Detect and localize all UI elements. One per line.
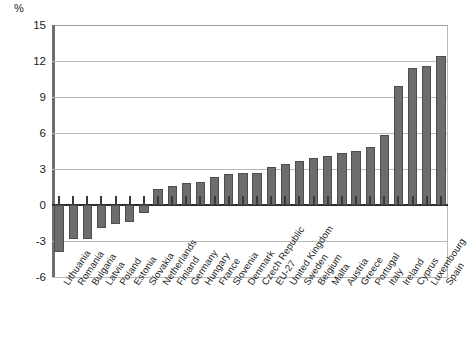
bar-slot bbox=[377, 25, 391, 277]
bar-slot bbox=[250, 25, 264, 277]
x-axis-tick-mark bbox=[412, 196, 414, 205]
x-axis-tick-mark bbox=[256, 196, 258, 205]
x-axis-tick-mark bbox=[214, 196, 216, 205]
bar[interactable] bbox=[380, 135, 389, 205]
x-axis-tick-mark bbox=[129, 196, 131, 205]
x-axis-tick-mark bbox=[115, 196, 117, 205]
x-axis-tick-mark bbox=[284, 196, 286, 205]
bar-slot bbox=[222, 25, 236, 277]
bar[interactable] bbox=[436, 56, 445, 205]
x-axis-tick-mark bbox=[355, 196, 357, 205]
y-tick-label--6: -6 bbox=[0, 272, 46, 282]
bar[interactable] bbox=[54, 205, 63, 252]
x-axis-tick-mark bbox=[313, 196, 315, 205]
bar-slot bbox=[406, 25, 420, 277]
x-axis-tick-mark bbox=[100, 196, 102, 205]
bar-slot bbox=[179, 25, 193, 277]
x-axis-tick-mark bbox=[143, 196, 145, 205]
bar-slot bbox=[307, 25, 321, 277]
bar-slot bbox=[391, 25, 405, 277]
bar[interactable] bbox=[97, 205, 106, 228]
bar-slot bbox=[363, 25, 377, 277]
x-axis-tick-mark bbox=[242, 196, 244, 205]
bar-slot bbox=[278, 25, 292, 277]
x-axis-tick-mark bbox=[397, 196, 399, 205]
x-axis-tick-mark bbox=[369, 196, 371, 205]
bar-slot bbox=[165, 25, 179, 277]
bar[interactable] bbox=[408, 68, 417, 205]
bar-slot bbox=[137, 25, 151, 277]
bar[interactable] bbox=[139, 205, 148, 213]
bar[interactable] bbox=[111, 205, 120, 224]
x-axis-tick-mark bbox=[383, 196, 385, 205]
x-axis-tick-mark bbox=[440, 196, 442, 205]
bar-slot bbox=[151, 25, 165, 277]
bar-slot bbox=[193, 25, 207, 277]
bar[interactable] bbox=[125, 205, 134, 222]
x-axis-tick-mark bbox=[199, 196, 201, 205]
y-axis-unit-label: % bbox=[14, 2, 24, 14]
x-axis-tick-mark bbox=[426, 196, 428, 205]
bar[interactable] bbox=[83, 205, 92, 239]
x-axis-tick-mark bbox=[86, 196, 88, 205]
bar-slot bbox=[208, 25, 222, 277]
bar-slot bbox=[335, 25, 349, 277]
bar-slot bbox=[123, 25, 137, 277]
bar-slot bbox=[321, 25, 335, 277]
x-axis-tick-mark bbox=[270, 196, 272, 205]
gridline--6 bbox=[52, 277, 448, 278]
bar-slot bbox=[292, 25, 306, 277]
x-axis-tick-mark bbox=[171, 196, 173, 205]
bar-slot bbox=[94, 25, 108, 277]
bar-slot bbox=[434, 25, 448, 277]
bar[interactable] bbox=[69, 205, 78, 239]
x-axis-tick-mark bbox=[72, 196, 74, 205]
x-axis-tick-mark bbox=[341, 196, 343, 205]
y-tick-label-0: 0 bbox=[0, 200, 46, 210]
x-axis-tick-mark bbox=[157, 196, 159, 205]
y-tick-label-15: 15 bbox=[0, 20, 46, 30]
bar-slot bbox=[80, 25, 94, 277]
bar-slot bbox=[52, 25, 66, 277]
bar-slot bbox=[264, 25, 278, 277]
x-axis-tick-mark bbox=[327, 196, 329, 205]
bar-slot bbox=[109, 25, 123, 277]
bar[interactable] bbox=[422, 66, 431, 205]
bar[interactable] bbox=[394, 86, 403, 205]
bar-slot bbox=[349, 25, 363, 277]
x-axis-tick-mark bbox=[185, 196, 187, 205]
y-tick-label--3: -3 bbox=[0, 236, 46, 246]
x-axis-tick-mark bbox=[228, 196, 230, 205]
bar-slot bbox=[236, 25, 250, 277]
y-tick-label-9: 9 bbox=[0, 92, 46, 102]
y-tick-label-6: 6 bbox=[0, 128, 46, 138]
bar-slot bbox=[420, 25, 434, 277]
x-axis-tick-mark bbox=[58, 196, 60, 205]
bar-slot bbox=[66, 25, 80, 277]
y-tick-label-12: 12 bbox=[0, 56, 46, 66]
bar-series bbox=[52, 25, 448, 277]
x-axis-tick-mark bbox=[298, 196, 300, 205]
y-tick-label-3: 3 bbox=[0, 164, 46, 174]
